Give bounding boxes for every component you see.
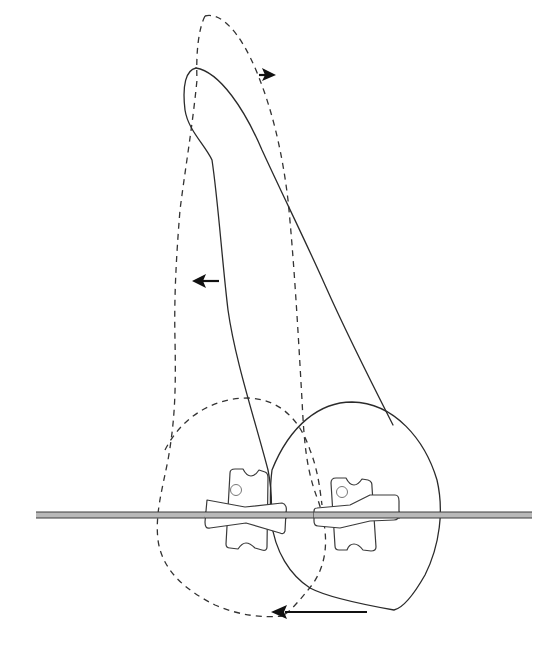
solid-root-right (196, 68, 393, 425)
arrow-left-mid-icon (192, 274, 219, 288)
bracket-left-wire-segment (205, 512, 287, 518)
bracket-right-hole (337, 487, 348, 498)
arrow-left-bottom-icon (271, 605, 367, 619)
solid-root-left (184, 68, 272, 520)
bracket-right-wire-segment (314, 512, 400, 518)
bracket-right (314, 478, 400, 551)
bracket-left-hole (231, 485, 242, 496)
tooth-final-outline (184, 68, 440, 610)
tooth-movement-diagram (0, 0, 558, 654)
arrow-right-icon (259, 68, 276, 81)
